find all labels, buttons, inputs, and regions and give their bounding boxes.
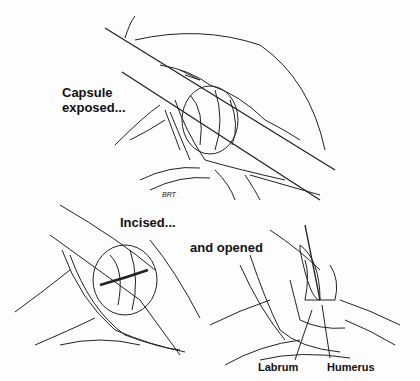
- caption-incised: Incised...: [120, 215, 176, 230]
- label-humerus: Humerus: [327, 360, 375, 375]
- line-drawing: [0, 0, 420, 381]
- caption-line-1: Capsule: [62, 85, 126, 100]
- top-panel-drawing: [105, 16, 335, 200]
- caption-line-2: exposed...: [62, 100, 126, 115]
- caption-capsule-exposed: Capsule exposed...: [62, 85, 126, 115]
- caption-and-opened: and opened: [190, 240, 263, 255]
- label-labrum: Labrum: [258, 360, 298, 375]
- artist-signature: BRT: [162, 187, 176, 202]
- surgical-illustration: Capsule exposed... Incised... and opened…: [0, 0, 420, 381]
